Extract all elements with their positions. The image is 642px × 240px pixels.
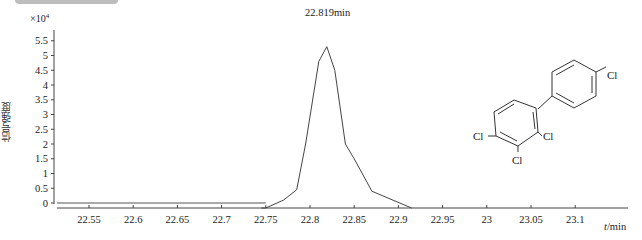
y-tick-label: 1 [43,168,48,179]
x-tick-label: 22.6 [124,214,142,225]
y-tick-label: 5.5 [35,35,48,46]
y-tick-label: 1.5 [35,153,48,164]
cl-label-3: Cl [512,154,522,166]
x-tick-label: 22.85 [342,214,366,225]
y-tick-label: 4.5 [35,65,48,76]
x-tick-label: 22.75 [254,214,278,225]
x-tick-label: 23 [482,214,493,225]
x-tick-label: 22.95 [431,214,455,225]
y-tick-label: 5 [43,50,48,61]
x-tick-label: 22.65 [166,214,190,225]
y-tick-label: 3.5 [35,94,48,105]
x-tick-label: 22.55 [77,214,101,225]
x-tick-label: 22.8 [301,214,319,225]
y-tick-label: 3 [43,109,48,120]
upper-benzene-ring [552,60,596,108]
x-tick-label: 23.1 [566,214,584,225]
cl-label-4: Cl [473,130,483,142]
y-tick-label: 2 [43,139,48,150]
y-tick-label: 4 [43,80,49,91]
molecule-structure-diagram: Cl Cl Cl Cl [470,20,630,180]
lower-benzene-ring [494,100,538,146]
y-tick-label: 0 [43,198,48,209]
y-tick-label: 0.5 [35,183,48,194]
x-tick-label: 23.05 [519,214,543,225]
chromatogram-trace [261,47,411,208]
x-tick-label: 22.7 [212,214,230,225]
cl-label-para: Cl [607,69,617,81]
cl-label-2: Cl [543,130,553,142]
y-tick-label: 2.5 [35,124,48,135]
x-tick-label: 22.9 [389,214,407,225]
